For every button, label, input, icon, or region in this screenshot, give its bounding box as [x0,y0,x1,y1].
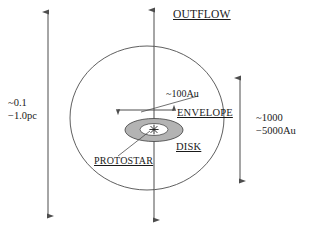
envelope-label: ENVELOPE [177,107,233,119]
outflow-label: OUTFLOW [173,8,231,22]
inner-scale-label: ~100Au [166,88,199,100]
outer-scale-label-right-line1: ~1000 [256,112,296,125]
outer-scale-label-right: ~1000 −5000Au [256,112,296,139]
protostar-diagram: OUTFLOW ENVELOPE DISK PROTOSTAR ~100Au ~… [0,0,311,228]
outer-scale-label-left-line2: −1.0pc [8,110,37,123]
outer-scale-label-right-line2: −5000Au [256,125,296,138]
disk-label: DISK [176,141,201,153]
outer-scale-label-left: ~0.1 −1.0pc [8,97,37,124]
protostar-icon [149,125,158,135]
outer-scale-label-left-line1: ~0.1 [8,97,37,110]
protostar-label: PROTOSTAR [94,155,153,167]
